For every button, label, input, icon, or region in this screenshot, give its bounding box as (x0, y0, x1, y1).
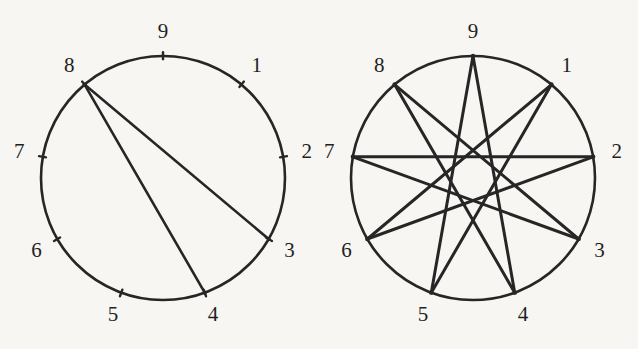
vertex-label-8: 8 (374, 53, 385, 77)
chord-8-to-4 (85, 85, 205, 293)
vertex-label-4: 4 (208, 302, 219, 326)
vertex-label-6: 6 (341, 238, 352, 262)
figure-canvas: 123456789123456789 (0, 0, 638, 349)
nonagon-chord-diagram-svg: 123456789123456789 (0, 0, 638, 349)
vertex-label-5: 5 (108, 302, 119, 326)
chord-8-to-3 (395, 85, 579, 239)
chord-2-to-6 (367, 157, 593, 239)
chord-8-to-3 (85, 85, 269, 239)
vertex-label-9: 9 (468, 19, 479, 43)
vertex-dot-5 (429, 290, 433, 294)
vertex-label-3: 3 (594, 238, 605, 262)
vertex-label-6: 6 (31, 238, 42, 262)
vertex-label-9: 9 (158, 19, 169, 43)
vertex-label-7: 7 (14, 139, 25, 163)
vertex-label-5: 5 (418, 302, 429, 326)
vertex-label-4: 4 (518, 302, 529, 326)
vertex-label-7: 7 (324, 139, 335, 163)
nonagram-star-circle: 123456789 (324, 19, 622, 326)
vertex-dot-4 (513, 290, 517, 294)
vertex-dot-6 (365, 237, 369, 241)
partial-chord-circle: 123456789 (14, 19, 312, 326)
vertex-dot-3 (576, 237, 580, 241)
circle-outline-left (41, 56, 285, 300)
vertex-dot-8 (83, 83, 87, 87)
vertex-label-2: 2 (302, 139, 313, 163)
vertex-label-3: 3 (284, 238, 295, 262)
vertex-dot-3 (267, 237, 271, 241)
vertex-dot-8 (392, 82, 396, 86)
tick-mark-2 (280, 156, 287, 157)
vertex-dot-2 (591, 155, 595, 159)
tick-mark-7 (39, 156, 46, 157)
vertex-dot-7 (351, 155, 355, 159)
chord-3-to-7 (353, 157, 579, 239)
vertex-dot-9 (471, 54, 475, 58)
tick-mark-5 (120, 290, 122, 297)
vertex-label-1: 1 (252, 53, 263, 77)
vertex-label-1: 1 (562, 53, 573, 77)
circle-outline-right (351, 56, 595, 300)
vertex-label-8: 8 (64, 53, 75, 77)
chord-6-to-1 (367, 85, 551, 239)
vertex-dot-1 (549, 82, 553, 86)
vertex-label-2: 2 (612, 139, 623, 163)
vertex-dot-4 (203, 291, 207, 295)
